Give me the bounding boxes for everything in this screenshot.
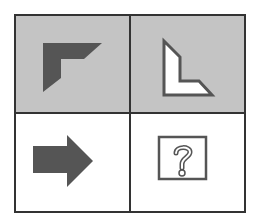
analogy-puzzle-grid — [0, 0, 258, 220]
cell-top-left — [15, 15, 130, 113]
cell-top-right — [130, 15, 245, 113]
question-mark-icon — [159, 137, 206, 179]
